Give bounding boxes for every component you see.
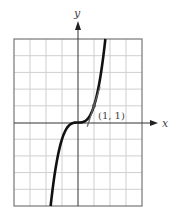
cubic-graph: x y (1, 1) [0,0,176,218]
axes: x y [14,7,169,206]
point-marker [92,104,96,108]
x-axis-label: x [162,117,169,130]
y-axis-arrow-icon [75,21,81,30]
point-label: (1, 1) [98,110,125,121]
y-axis-label: y [73,7,81,20]
x-axis-arrow-icon [150,120,158,126]
